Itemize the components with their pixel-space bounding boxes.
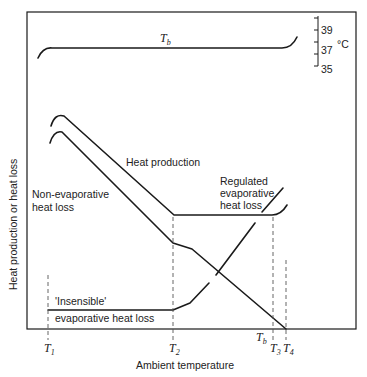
y-axis-label: Heat production or heat loss — [7, 159, 19, 290]
scale-tick-37: 37 — [321, 44, 333, 56]
regulated-label-1: Regulated — [220, 175, 268, 187]
insensible-label-1: 'Insensible' — [55, 295, 106, 307]
tb-curve-label: Tb — [160, 31, 171, 47]
plot-frame — [27, 12, 356, 329]
x-tick-t2: T2 — [169, 341, 180, 357]
heat-production-label: Heat production — [126, 156, 200, 168]
rising-evaporative-line — [216, 223, 255, 275]
temperature-scale: 39 37 35 °C — [314, 16, 349, 75]
x-tick-t4: T4 — [283, 341, 294, 357]
x-tick-t3: T3 — [270, 341, 281, 357]
scale-tick-35: 35 — [321, 63, 333, 75]
regulated-label-3: heat loss — [220, 199, 262, 211]
x-axis-label: Ambient temperature — [136, 359, 234, 371]
insensible-label-2: evaporative heat loss — [55, 312, 154, 324]
scale-tick-39: 39 — [321, 24, 333, 36]
x-tick-tb: Tb — [256, 330, 267, 346]
scale-unit: °C — [337, 38, 349, 50]
regulated-label-2: evaporative — [220, 187, 274, 199]
thermoregulation-chart: Tb 39 37 35 °C Heat production Non-evapo… — [0, 0, 367, 377]
non-evaporative-label-1: Non-evaporative — [32, 188, 109, 200]
x-tick-t1: T1 — [44, 341, 55, 357]
non-evaporative-label-2: heat loss — [32, 201, 74, 213]
